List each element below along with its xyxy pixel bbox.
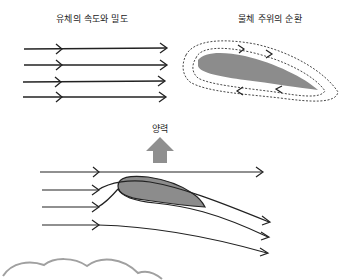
cloud-decoration	[3, 259, 162, 279]
flow-arrow	[23, 76, 165, 87]
uniform-flow-arrows	[23, 43, 167, 102]
diagram-canvas	[0, 0, 361, 280]
flow-arrow	[24, 43, 167, 54]
lift-arrow-icon	[146, 137, 174, 163]
streamline	[40, 167, 263, 177]
flow-arrow	[24, 60, 167, 70]
flow-arrow	[23, 92, 166, 102]
lift-flow-diagram	[40, 167, 270, 256]
airfoil-shape	[198, 53, 318, 90]
circulation-diagram	[183, 41, 338, 101]
streamline	[42, 220, 268, 256]
